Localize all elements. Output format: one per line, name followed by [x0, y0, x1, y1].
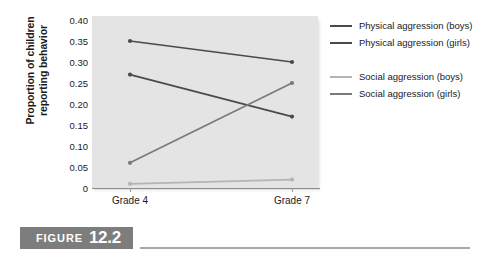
- legend-swatch: [330, 42, 352, 44]
- x-tick-label: Grade 4: [112, 195, 148, 206]
- legend-label: Physical aggression (girls): [359, 37, 470, 48]
- x-tick-mark: [130, 188, 131, 192]
- legend-swatch: [330, 76, 352, 78]
- legend-swatch: [330, 25, 352, 27]
- legend-item: Social aggression (boys): [330, 68, 490, 85]
- legend-spacer: [330, 51, 490, 68]
- y-tick-label: 0.20: [70, 99, 89, 110]
- x-axis-line: [92, 188, 320, 189]
- figure-chart: Proportion of children reporting behavio…: [0, 0, 490, 218]
- y-tick-label: 0.05: [70, 162, 89, 173]
- plot-area: [92, 16, 318, 188]
- chart-legend: Physical aggression (boys)Physical aggre…: [330, 17, 490, 102]
- legend-item: Physical aggression (girls): [330, 34, 490, 51]
- legend-label: Physical aggression (boys): [359, 20, 473, 31]
- y-tick-label: 0.15: [70, 120, 89, 131]
- figure-caption-rule: [140, 247, 470, 249]
- figure-caption-word: FIGURE: [36, 232, 83, 244]
- y-tick-label: 0.25: [70, 78, 89, 89]
- figure-caption-box: FIGURE 12.2: [20, 227, 133, 249]
- legend-label: Social aggression (girls): [359, 88, 460, 99]
- y-tick-label: 0.40: [70, 15, 89, 26]
- y-axis-ticks: 0.400.350.300.250.200.150.100.050: [46, 14, 88, 189]
- y-tick-label: 0: [83, 183, 88, 194]
- figure-caption: FIGURE 12.2: [0, 227, 490, 253]
- y-axis-title: Proportion of children reporting behavio…: [24, 0, 49, 151]
- x-tick-label: Grade 7: [274, 195, 310, 206]
- legend-swatch: [330, 93, 352, 95]
- figure-caption-number: 12.2: [89, 228, 121, 248]
- y-tick-label: 0.10: [70, 141, 89, 152]
- legend-item: Social aggression (girls): [330, 85, 490, 102]
- y-tick-label: 0.35: [70, 36, 89, 47]
- legend-item: Physical aggression (boys): [330, 17, 490, 34]
- legend-label: Social aggression (boys): [359, 71, 463, 82]
- x-tick-mark: [292, 188, 293, 192]
- y-axis-title-line1: Proportion of children: [24, 16, 36, 124]
- y-tick-label: 0.30: [70, 57, 89, 68]
